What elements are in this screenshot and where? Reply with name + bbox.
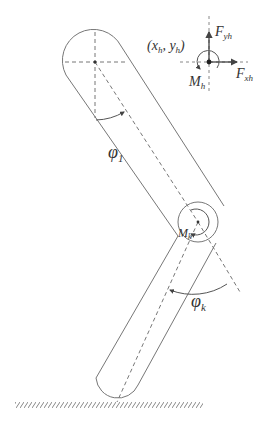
mh-arc <box>197 51 219 69</box>
ground <box>15 402 203 408</box>
hip-center-dot <box>93 60 96 63</box>
mk-label: Mk <box>177 226 192 241</box>
fx-label: Fxh <box>235 66 254 83</box>
phik-label: φk <box>191 291 207 313</box>
knee-center-dot <box>197 221 200 224</box>
hip-coord-label: (xh, yh) <box>147 38 185 55</box>
leg-diagram: (xh, yh) Fyh Fxh Mh Mk φ1 φk <box>0 0 268 432</box>
phi1-label: φ1 <box>108 142 123 164</box>
fy-label: Fyh <box>214 24 233 41</box>
phi1-arc <box>96 112 124 120</box>
shank-segment <box>96 222 240 402</box>
mh-label: Mh <box>188 74 206 91</box>
thigh-segment <box>62 29 224 240</box>
